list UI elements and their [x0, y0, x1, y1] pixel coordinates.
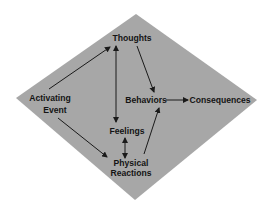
node-physical-reactions-line1: Physical	[114, 158, 149, 168]
node-thoughts: Thoughts	[112, 33, 151, 43]
node-consequences: Consequences	[189, 95, 250, 105]
node-activating-event-line1: Activating	[29, 93, 71, 103]
node-activating-event-line2: Event	[43, 105, 67, 115]
node-behaviors: Behaviors	[125, 95, 167, 105]
node-physical-reactions-line2: Reactions	[110, 168, 151, 178]
node-feelings: Feelings	[110, 126, 145, 136]
cbt-diagram: Thoughts Activating Event Behaviors Cons…	[0, 0, 270, 212]
